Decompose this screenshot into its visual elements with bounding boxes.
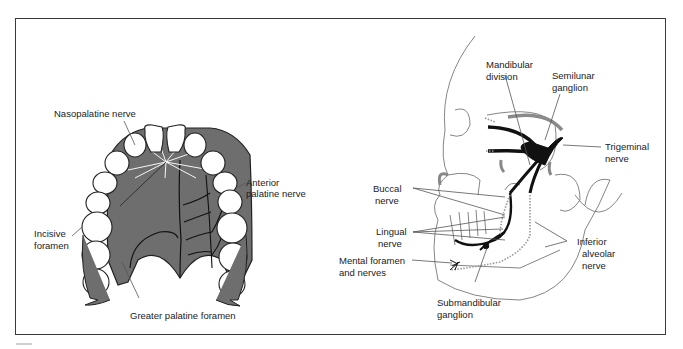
label-buccal-nerve-line2: nerve	[375, 195, 399, 206]
premolar-2-right	[218, 190, 242, 214]
label-mental-foramen-line2: and nerves	[339, 267, 386, 278]
label-lingual-nerve-line2: nerve	[378, 238, 402, 249]
inferior-alveolar-nerve-path	[450, 118, 530, 270]
label-anterior-palatine-nerve-line2: palatine nerve	[246, 188, 306, 199]
premolar-1-left	[93, 172, 117, 194]
label-inferior-alveolar-nerve-line1: Inferior	[577, 236, 607, 247]
trigeminal-nerve	[455, 127, 563, 250]
label-buccal-nerve-line1: Buccal	[373, 183, 402, 194]
label-semilunar-ganglion-line1: Semilunar	[552, 70, 595, 81]
anatomy-illustration	[0, 0, 683, 349]
label-mental-foramen-line1: Mental foramen	[339, 255, 405, 266]
label-greater-palatine-foramen: Greater palatine foramen	[130, 310, 236, 321]
label-mandibular-division-line2: division	[486, 71, 518, 82]
label-anterior-palatine-nerve-line1: Anterior	[246, 177, 279, 188]
lateral-incisor-right	[184, 133, 206, 157]
label-submandibular-ganglion-line2: ganglion	[437, 309, 473, 320]
label-inferior-alveolar-nerve-line3: nerve	[582, 260, 606, 271]
label-trigeminal-nerve-line1: Trigeminal	[605, 141, 649, 152]
label-mandibular-division-line1: Mandibular	[486, 59, 533, 70]
label-trigeminal-nerve-line2: nerve	[605, 153, 629, 164]
submandibular-ganglion-dot	[483, 243, 489, 249]
molar-1-right	[217, 213, 247, 243]
label-semilunar-ganglion-line2: ganglion	[552, 82, 588, 93]
label-incisive-foramen-line1: Incisive	[34, 228, 66, 239]
molar-1-left	[82, 212, 112, 242]
label-incisive-foramen-line2: foramen	[34, 240, 69, 251]
label-inferior-alveolar-nerve-line2: alveolar	[582, 248, 615, 259]
canine-right	[201, 151, 225, 175]
canine-left	[105, 151, 129, 175]
premolar-2-left	[86, 192, 110, 214]
label-submandibular-ganglion-line1: Submandibular	[437, 297, 501, 308]
label-nasopalatine-nerve: Nasopalatine nerve	[54, 108, 136, 119]
palate-illustration	[72, 121, 252, 306]
label-lingual-nerve-line1: Lingual	[376, 226, 407, 237]
